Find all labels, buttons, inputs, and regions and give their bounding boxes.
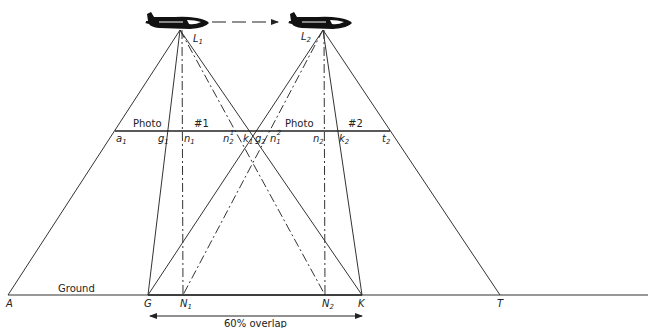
image-point-k2: k2 [339, 133, 350, 146]
station-label-l2: L2 [301, 31, 312, 44]
ground-point-g: G [144, 298, 152, 309]
image-point-a1: a1 [116, 133, 127, 146]
rays-from-l1 [8, 30, 362, 295]
airplane-1-icon [145, 12, 209, 29]
image-point-n1: n1 [184, 133, 195, 146]
image-point-t2: t2 [382, 133, 391, 146]
photo1-number: #1 [194, 118, 209, 129]
image-point-n2: n2 [313, 133, 324, 146]
ground-point-n1: N1 [180, 298, 192, 311]
ground-point-n2: N2 [322, 298, 334, 311]
ground-point-k: K [358, 298, 366, 309]
station-label-l1: L1 [193, 33, 203, 46]
ground-point-a: A [5, 298, 13, 309]
aerial-overlap-diagram: L1 L2 Photo #1 Photo #2 a1 g1 n1 n21 k1 … [0, 0, 650, 328]
rays-from-l2 [148, 30, 500, 295]
overlap-label: 60% overlap [224, 318, 287, 328]
photo1-label: Photo [133, 118, 162, 129]
photo2-label: Photo [285, 118, 314, 129]
image-point-g2: g2 [255, 133, 266, 146]
ground-label: Ground [58, 283, 95, 294]
photo2-number: #2 [348, 118, 363, 129]
ground-point-labels: A G N1 N2 K T [5, 298, 504, 311]
ground-point-t: T [497, 298, 504, 309]
airplane-2-icon [288, 12, 352, 29]
